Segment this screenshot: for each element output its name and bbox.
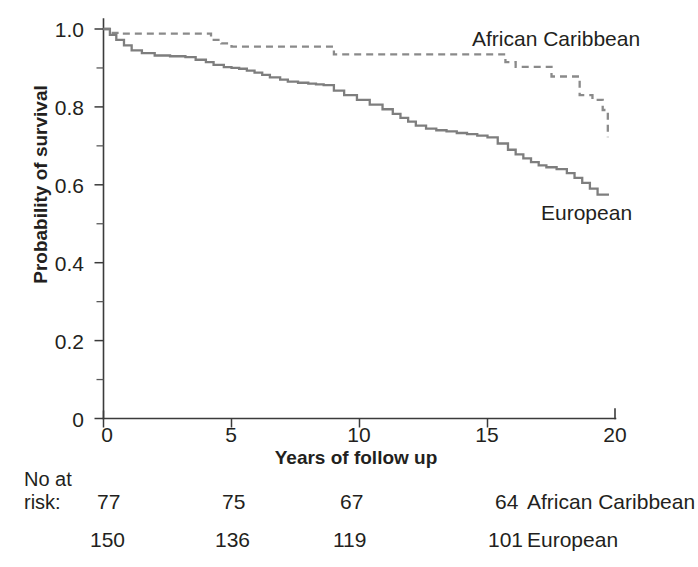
risk-value-ac-10: 67 bbox=[340, 491, 363, 512]
y-tick-label-0.2: 0.2 bbox=[22, 331, 84, 352]
risk-value-ac-15: 64 bbox=[495, 491, 518, 512]
risk-row-label-african-caribbean: African Caribbean bbox=[527, 491, 695, 512]
x-tick-label-0: 0 bbox=[95, 424, 119, 445]
y-tick-marks bbox=[95, 29, 104, 419]
numbers-at-risk-table: No at risk: 77 75 67 64 African Caribbea… bbox=[0, 466, 698, 556]
risk-value-eu-5: 136 bbox=[215, 529, 250, 550]
y-tick-label-0: 0 bbox=[22, 409, 84, 430]
risk-value-eu-15: 101 bbox=[488, 529, 523, 550]
survival-curves bbox=[104, 29, 608, 196]
x-tick-label-10: 10 bbox=[341, 424, 377, 445]
risk-table-header-line2: risk: bbox=[24, 491, 61, 514]
x-tick-label-15: 15 bbox=[469, 424, 505, 445]
risk-value-eu-0: 150 bbox=[90, 529, 125, 550]
y-tick-label-1.0: 1.0 bbox=[22, 19, 84, 40]
risk-value-ac-0: 77 bbox=[97, 491, 120, 512]
y-axis-title: Probability of survival bbox=[31, 55, 50, 315]
risk-row-label-european: European bbox=[527, 529, 618, 550]
risk-value-eu-10: 119 bbox=[333, 529, 366, 550]
survival-chart-figure: 1.0 0.8 0.6 0.4 0.2 0 0 5 10 15 20 Proba… bbox=[0, 0, 698, 567]
series-label-european: European bbox=[541, 202, 632, 223]
risk-table-header-line1: No at bbox=[24, 468, 72, 491]
x-axis-title: Years of follow up bbox=[228, 448, 484, 467]
x-tick-label-20: 20 bbox=[597, 424, 633, 445]
risk-value-ac-5: 75 bbox=[222, 491, 245, 512]
axes-group bbox=[104, 19, 616, 419]
series-label-african-caribbean: African Caribbean bbox=[472, 28, 640, 49]
x-tick-label-5: 5 bbox=[219, 424, 243, 445]
